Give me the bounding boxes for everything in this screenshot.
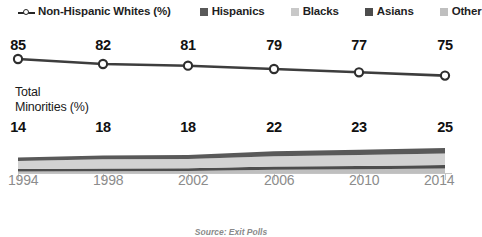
x-axis-tick-labels: 1994 1998 2002 2006 2010 2014 (0, 173, 462, 193)
line-data-point (355, 68, 363, 76)
x-tick-label: 2014 (424, 173, 454, 187)
legend-label-hispanics: Hispanics (212, 6, 265, 18)
square-swatch-icon-asians (365, 8, 373, 16)
line-marker-icon (18, 8, 35, 17)
x-tick-label: 1994 (8, 173, 38, 187)
legend-label-non-hispanic-whites: Non-Hispanic Whites (%) (38, 6, 171, 18)
square-swatch-icon-hispanics (200, 8, 208, 16)
x-tick-label: 2010 (349, 173, 379, 187)
legend-item-hispanics[interactable]: Hispanics (200, 6, 265, 18)
line-series-path (18, 59, 445, 76)
legend-label-other: Other (452, 6, 482, 18)
x-tick-label: 2006 (264, 173, 294, 187)
legend-item-asians[interactable]: Asians (365, 6, 414, 18)
legend-item-other[interactable]: Other (440, 6, 482, 18)
line-data-point (14, 55, 22, 63)
legend-item-blacks[interactable]: Blacks (291, 6, 339, 18)
line-data-point (270, 65, 278, 73)
stacked-area-bands (18, 148, 445, 173)
line-data-point (99, 60, 107, 68)
legend-label-blacks: Blacks (303, 6, 339, 18)
chart-plot-area: 85 82 81 79 77 75 Total Minorities (%) 1… (0, 24, 462, 223)
x-tick-label: 1998 (93, 173, 123, 187)
square-swatch-icon-other (440, 8, 448, 16)
square-swatch-icon-blacks (291, 8, 299, 16)
chart-graphics (0, 24, 462, 223)
line-data-point (441, 72, 449, 80)
chart-legend: Non-Hispanic Whites (%) Hispanics Blacks… (0, 0, 462, 24)
line-data-point (184, 62, 192, 70)
source-note: Source: Exit Polls (0, 227, 462, 237)
line-series-non-hispanic-whites (14, 55, 449, 80)
x-tick-label: 2002 (178, 173, 208, 187)
legend-item-non-hispanic-whites[interactable]: Non-Hispanic Whites (%) (18, 6, 171, 18)
legend-label-asians: Asians (377, 6, 414, 18)
